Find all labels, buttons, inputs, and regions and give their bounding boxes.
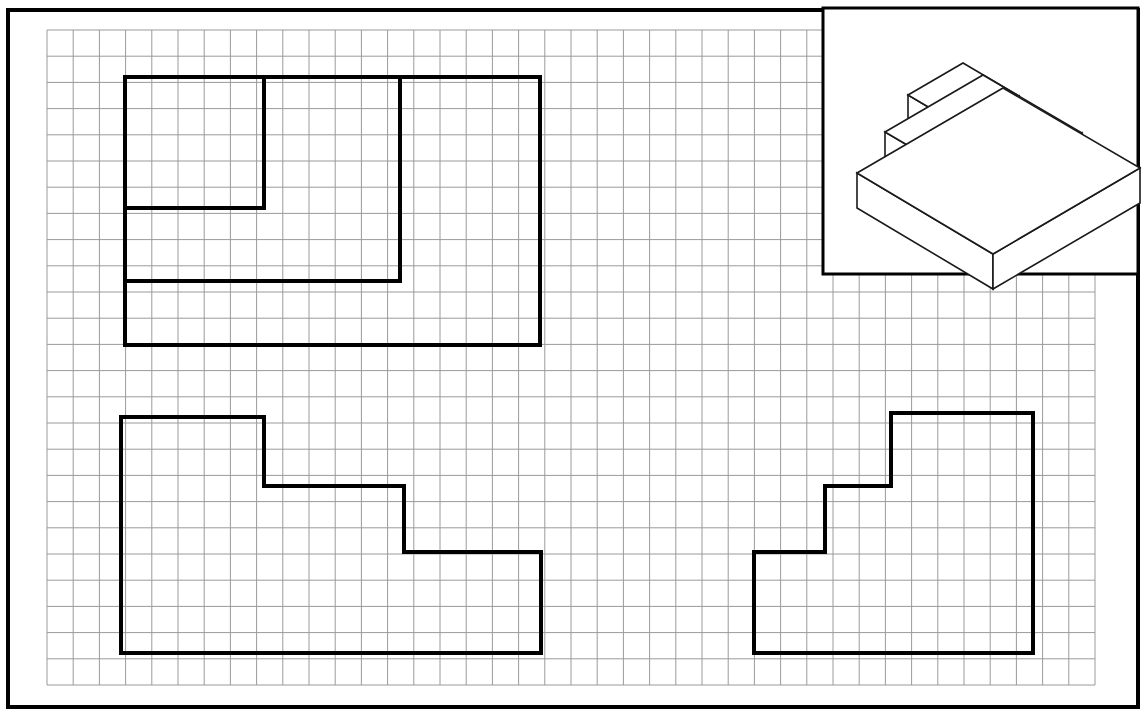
- technical-drawing-sheet: [0, 0, 1146, 725]
- worksheet-page: [0, 0, 1146, 725]
